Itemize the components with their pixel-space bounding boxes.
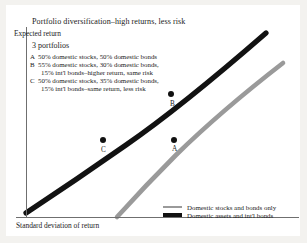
page-title: Portfolio diversification–high returns, … [32,17,185,26]
note-key-b: B [30,61,38,76]
data-point-a [171,137,177,143]
legend-label-domestic-only: Domestic stocks and bonds only [187,204,276,211]
curves-layer [6,5,300,236]
exhibit-figure: Portfolio diversification–high returns, … [0,0,307,243]
portfolio-notes: 3 portfolios A 50% domestic stocks, 50% … [30,41,159,93]
legend-swatch-domestic-only [163,206,182,209]
legend-swatch-with-intl-bonds [163,213,182,216]
note-text-c: 50% domestic stocks, 35% domestic bonds,… [38,77,159,92]
note-text-c-line2: 15% int'l bonds–same return, less risk [38,85,159,93]
note-text-b-line1: 55% domestic stocks, 30% domestic bonds, [38,61,159,68]
note-key-c: C [30,77,38,92]
data-point-a-label: A [172,145,177,153]
plot-area: Portfolio diversification–high returns, … [6,5,300,236]
note-text-a: 50% domestic stocks, 50% domestic bonds [38,53,157,61]
note-text-b: 55% domestic stocks, 30% domestic bonds,… [38,61,159,76]
x-axis-label: Standard deviation of return [16,221,99,230]
legend-item-domestic-only: Domestic stocks and bonds only [163,203,276,211]
data-point-b-label: B [170,100,175,108]
legend-item-with-intl-bonds: Domestic assets and int'l bonds [163,211,276,219]
note-key-a: A [30,53,38,61]
legend: Domestic stocks and bonds only Domestic … [163,203,276,219]
note-item-b: B 55% domestic stocks, 30% domestic bond… [30,61,159,76]
note-item-a: A 50% domestic stocks, 50% domestic bond… [30,53,159,61]
data-point-c-label: C [101,146,106,154]
data-point-c [100,137,106,143]
notes-heading: 3 portfolios [32,41,159,50]
note-item-c: C 50% domestic stocks, 35% domestic bond… [30,77,159,92]
data-point-b [168,91,174,97]
y-axis-label: Expected return [14,29,61,38]
y-axis-line [26,27,27,217]
legend-label-with-intl-bonds: Domestic assets and int'l bonds [187,212,273,219]
note-text-c-line1: 50% domestic stocks, 35% domestic bonds, [38,77,159,84]
note-text-b-line2: 15% int'l bonds–higher return, same risk [38,69,159,77]
